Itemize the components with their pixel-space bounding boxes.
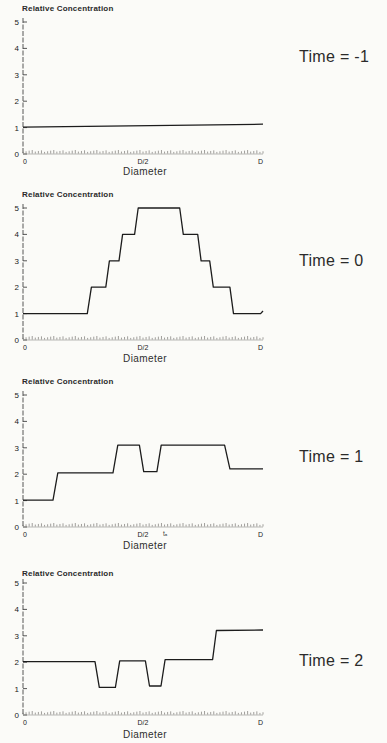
plot-time-minus-1: 0123450D/2D Relative Concentration Diame… [0,4,387,186]
y-tick-label: 5 [15,579,20,588]
y-axis-title: Relative Concentration [22,569,114,578]
x-tick-label: 0 [23,158,27,165]
y-tick-label: 3 [15,257,20,266]
series-relative-concentration [23,630,263,687]
y-tick-label: 5 [15,204,20,213]
y-tick-label: 4 [15,44,20,53]
x-axis-label: Diameter [95,166,195,177]
x-axis-label: Diameter [95,353,195,364]
y-tick-label: 5 [15,391,20,400]
y-tick-label: 2 [15,283,20,292]
axis-annotation: tₐ [163,530,167,537]
y-tick-label: 2 [15,97,20,106]
plot-canvas: 0123450D/2D [0,377,387,555]
x-tick-label: D/2 [138,719,149,726]
y-tick-label: 0 [15,711,20,720]
plot-time-1: 0123450D/2D Relative Concentration tₐ Di… [0,377,387,557]
y-tick-label: 4 [15,230,20,239]
y-tick-label: 3 [15,444,20,453]
x-axis-label: Diameter [95,729,195,740]
x-tick-label: D [258,531,263,538]
y-tick-label: 1 [15,497,20,506]
x-tick-label: D/2 [138,344,149,351]
series-relative-concentration [23,445,263,500]
y-tick-label: 3 [15,632,20,641]
y-tick-label: 5 [15,18,20,27]
y-axis-title: Relative Concentration [22,190,114,199]
y-tick-label: 4 [15,605,20,614]
time-label-2: Time = 2 [299,652,387,670]
y-tick-label: 4 [15,417,20,426]
series-relative-concentration [23,124,263,127]
x-tick-label: D/2 [138,531,149,538]
y-tick-label: 2 [15,470,20,479]
y-tick-label: 0 [15,150,20,159]
y-tick-label: 1 [15,310,20,319]
x-tick-label: 0 [23,531,27,538]
x-tick-label: D [258,344,263,351]
x-tick-label: D [258,158,263,165]
y-tick-label: 0 [15,523,20,532]
y-axis-title: Relative Concentration [22,4,114,13]
x-tick-label: 0 [23,344,27,351]
y-axis-title: Relative Concentration [22,377,114,386]
x-tick-label: D [258,719,263,726]
plot-canvas: 0123450D/2D [0,190,387,368]
series-relative-concentration [23,208,263,314]
y-tick-label: 3 [15,71,20,80]
y-tick-label: 1 [15,685,20,694]
y-tick-label: 2 [15,658,20,667]
time-label-1: Time = 1 [299,448,387,466]
y-tick-label: 1 [15,124,20,133]
plot-canvas: 0123450D/2D [0,4,387,182]
x-tick-label: D/2 [138,158,149,165]
x-axis-label: Diameter [95,540,195,551]
y-tick-label: 0 [15,336,20,345]
time-label-minus-1: Time = -1 [299,48,387,66]
x-tick-label: 0 [23,719,27,726]
plot-time-0: 0123450D/2D Relative Concentration Diame… [0,190,387,370]
time-label-0: Time = 0 [299,252,387,270]
